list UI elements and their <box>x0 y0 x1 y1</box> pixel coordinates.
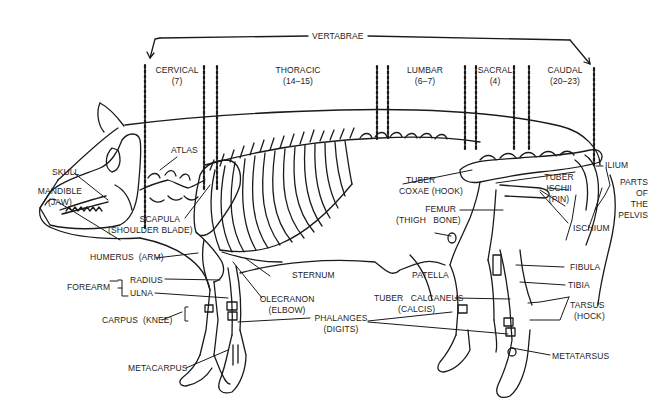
label-ilium: ILIUM <box>605 160 628 171</box>
region-name: SACRAL <box>477 65 513 76</box>
label-text: MANDIBLE <box>36 186 84 197</box>
label-metatarsus: METATARSUS <box>552 351 609 362</box>
label-text: CARPUS <box>102 315 138 325</box>
label-caudal: CAUDAL (20–23) <box>540 65 590 87</box>
label-alt: (JAW) <box>36 197 84 208</box>
label-phalanges: PHALANGES (DIGITS) <box>312 313 370 335</box>
label-text: FEMUR <box>396 204 460 215</box>
label-sternum: STERNUM <box>292 270 335 281</box>
label-text: HUMERUS <box>90 252 134 262</box>
label-tarsus: TARSUS (HOCK) <box>570 300 605 322</box>
label-text: SCAPULA <box>108 214 188 225</box>
label-text: OLECRANON <box>258 294 316 305</box>
label-tibia: TIBIA <box>568 280 590 291</box>
label-text: ULNA <box>130 288 153 299</box>
label-text: PATELLA <box>412 270 449 281</box>
region-count: (20–23) <box>540 76 590 87</box>
sternum-drawing <box>222 252 282 262</box>
label-skull: SKULL <box>52 167 79 178</box>
label-tuber-calcaneus: TUBER CALCANEUS (CALCIS) <box>374 293 460 315</box>
label-alt: (SHOULDER BLADE) <box>108 225 188 236</box>
label-alt: (ELBOW) <box>258 305 316 316</box>
label-text: ILIUM <box>605 160 628 171</box>
spine-drawing <box>205 128 480 170</box>
label-text: TUBER CALCANEUS <box>374 293 460 304</box>
label-text: TARSUS <box>570 300 605 311</box>
label-ischium: ISCHIUM <box>573 223 610 234</box>
label-text: STERNUM <box>292 270 335 281</box>
label-alt: (HOCK) <box>570 311 605 322</box>
label-lumbar: LUMBAR (6–7) <box>400 65 450 87</box>
label-text: TUBER <box>543 172 575 183</box>
region-name: LUMBAR <box>400 65 450 76</box>
vertebrae-bracket <box>147 36 590 64</box>
label-text: THE <box>612 199 648 210</box>
label-carpus: CARPUS (KNEE) <box>102 315 172 326</box>
label-text: METACARPUS <box>128 363 187 374</box>
label-cervical: CERVICAL (7) <box>153 65 201 87</box>
label-text: TUBER <box>398 175 464 186</box>
label-text: TIBIA <box>568 280 590 291</box>
label-olecranon: OLECRANON (ELBOW) <box>258 294 316 316</box>
label-metacarpus: METACARPUS <box>128 363 187 374</box>
region-name: CERVICAL <box>153 65 201 76</box>
label-atlas: ATLAS <box>171 145 198 156</box>
label-text: FIBULA <box>570 262 600 273</box>
region-dividers <box>145 65 594 230</box>
label-scapula: SCAPULA (SHOULDER BLADE) <box>108 214 188 236</box>
label-fibula: FIBULA <box>570 262 600 273</box>
label-tuber-ischii: TUBER ISCHII (PIN) <box>543 172 575 205</box>
region-name: THORACIC <box>270 65 326 76</box>
label-text: SKULL <box>52 167 79 178</box>
label-humerus: HUMERUS (ARM) <box>90 252 164 263</box>
label-alt: (DIGITS) <box>312 324 370 335</box>
label-tuber-coxae: TUBER COXAE (HOOK) <box>398 175 464 197</box>
region-count: (6–7) <box>400 76 450 87</box>
label-patella: PATELLA <box>412 270 449 281</box>
pig-skeleton-diagram: VERTABRAE CERVICAL (7) THORACIC (14–15) … <box>0 0 671 408</box>
label-mandible: MANDIBLE (JAW) <box>36 186 84 208</box>
label-thoracic: THORACIC (14–15) <box>270 65 326 87</box>
label-alt: (KNEE) <box>143 315 172 325</box>
label-parts-of-pelvis: PARTS OF THE PELVIS <box>612 177 648 221</box>
region-count: (14–15) <box>270 76 326 87</box>
label-alt: (PIN) <box>543 194 575 205</box>
label-text: ATLAS <box>171 145 198 156</box>
label-text: PHALANGES <box>312 313 370 324</box>
label-sacral: SACRAL (4) <box>477 65 513 87</box>
region-count: (4) <box>477 76 513 87</box>
label-text: VERTABRAE <box>312 31 364 42</box>
label-ulna: ULNA <box>130 288 153 299</box>
label-vertebrae: VERTABRAE <box>312 31 364 42</box>
region-name: CAUDAL <box>540 65 590 76</box>
label-text: OF <box>612 188 648 199</box>
label-text: FOREARM <box>67 282 110 293</box>
label-text: RADIUS <box>130 275 163 286</box>
label-text: PARTS <box>612 177 648 188</box>
label-alt: (ARM) <box>139 252 164 262</box>
label-text: ISCHIUM <box>573 223 610 234</box>
label-text: PELVIS <box>612 210 648 221</box>
region-count: (7) <box>153 76 201 87</box>
label-text: ISCHII <box>543 183 575 194</box>
label-femur: FEMUR (THIGH BONE) <box>396 204 460 226</box>
label-forearm: FOREARM <box>67 282 110 293</box>
label-alt: (THIGH BONE) <box>396 215 460 226</box>
label-radius: RADIUS <box>130 275 163 286</box>
label-alt: (CALCIS) <box>374 304 460 315</box>
label-text: METATARSUS <box>552 351 609 362</box>
label-text: COXAE (HOOK) <box>398 186 464 197</box>
